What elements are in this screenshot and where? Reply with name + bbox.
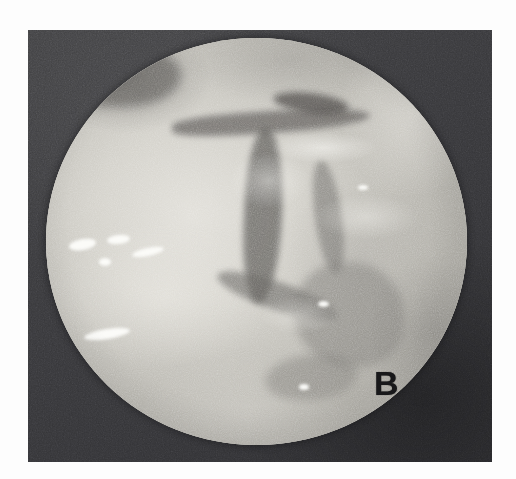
photo-dark-frame: B xyxy=(28,30,492,462)
shadow-lower-central xyxy=(263,351,360,405)
figure-canvas: B xyxy=(0,0,516,479)
panel-label-b: B xyxy=(374,366,399,400)
tissue-fissure-group xyxy=(46,38,467,445)
fissure-vertical-right xyxy=(308,159,351,276)
endoscopic-field-of-view xyxy=(46,38,467,445)
shadow-pocket-right xyxy=(294,262,403,368)
shadow-upper-left xyxy=(71,46,180,107)
